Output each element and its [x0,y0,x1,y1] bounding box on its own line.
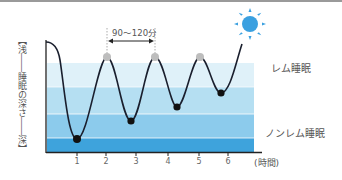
x-tick-2: 2 [103,157,108,166]
x-tick-3: 3 [133,157,138,166]
band-rem [47,63,254,87]
rem-marker [151,53,159,61]
rem-marker [196,53,204,61]
x-tick-6: 6 [225,157,230,166]
deep-sleep-marker [73,135,81,143]
interval-label: 90〜120分 [112,26,157,38]
rem-marker [103,53,111,61]
rem-sleep-label: レム睡眠 [271,60,311,75]
deep-sleep-marker [217,89,224,96]
sun-icon [234,8,266,40]
nonrem-sleep-label: ノンレム睡眠 [265,125,325,140]
x-tick-5: 5 [196,157,201,166]
deep-sleep-marker [127,117,134,124]
deep-sleep-marker [173,103,180,110]
band-mid-sleep [47,114,254,138]
x-axis-unit-label: (時間) [254,156,279,169]
sleep-cycle-diagram [0,0,342,180]
y-axis-label: 【浅――睡眠の深さ――深】 [14,36,28,153]
x-tick-1: 1 [74,157,79,166]
x-tick-4: 4 [165,157,170,166]
